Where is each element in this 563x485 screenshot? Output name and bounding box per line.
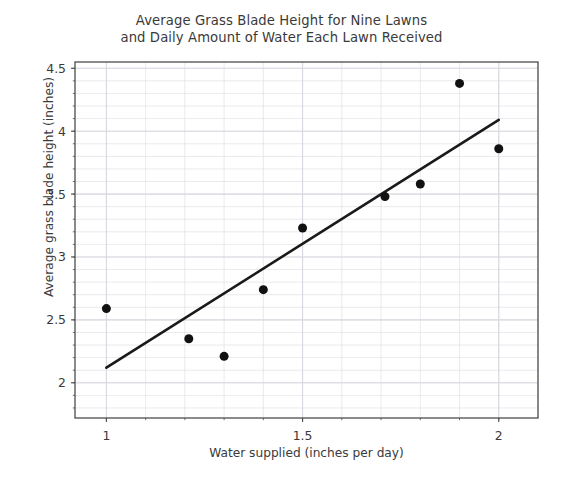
data-point <box>102 304 111 313</box>
scatter-plot-canvas: 11.5222.533.544.5 <box>0 0 563 485</box>
svg-text:2.5: 2.5 <box>46 312 66 327</box>
svg-text:3.5: 3.5 <box>46 187 66 202</box>
data-point <box>184 334 193 343</box>
tick-labels: 11.5222.533.544.5 <box>46 61 502 443</box>
svg-text:4: 4 <box>58 124 66 139</box>
data-point <box>416 180 425 189</box>
data-point <box>298 224 307 233</box>
data-point <box>455 79 464 88</box>
svg-text:2: 2 <box>58 375 66 390</box>
data-point <box>494 144 503 153</box>
svg-text:3: 3 <box>58 249 66 264</box>
data-point <box>220 352 229 361</box>
svg-text:4.5: 4.5 <box>46 61 66 76</box>
data-point <box>259 285 268 294</box>
data-point <box>380 192 389 201</box>
svg-text:1: 1 <box>102 428 110 443</box>
svg-text:1.5: 1.5 <box>293 428 313 443</box>
chart-figure: Average Grass Blade Height for Nine Lawn… <box>0 0 563 485</box>
svg-text:2: 2 <box>495 428 503 443</box>
axis-ticks <box>71 68 499 422</box>
